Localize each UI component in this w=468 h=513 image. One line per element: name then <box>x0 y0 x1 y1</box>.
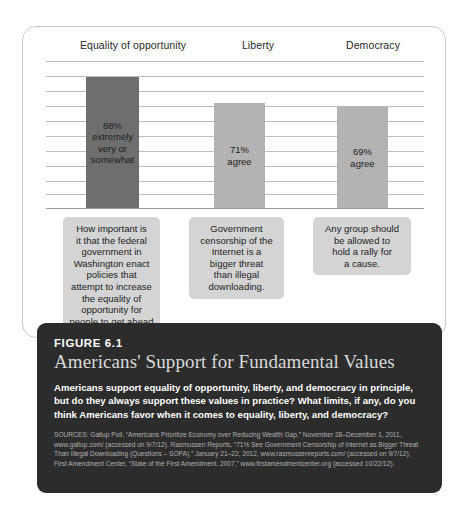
figure-number: FIGURE 6.1 <box>54 337 425 349</box>
figure-caption-panel: FIGURE 6.1 Americans' Support for Fundam… <box>37 323 442 493</box>
bar-liberty[interactable]: 71%agree <box>214 103 265 208</box>
chart-column-header-equality-of-opportunity: Equality of opportunity <box>38 39 228 51</box>
callout-liberty: Governmentcensorship of theInternet is a… <box>189 217 284 299</box>
chart-baseline <box>46 208 424 209</box>
callout-democracy: Any group shouldbe allowed tohold a rall… <box>313 217 411 275</box>
bar-democracy[interactable]: 69%agree <box>337 107 388 208</box>
gridline <box>46 61 424 62</box>
bar-chart: Equality of opportunity Liberty Democrac… <box>46 39 424 211</box>
chart-column-header-democracy: Democracy <box>318 39 428 51</box>
figure-title: Americans' Support for Fundamental Value… <box>54 351 425 373</box>
bar-value-label-democracy: 69%agree <box>348 146 376 169</box>
figure-description: Americans support equality of opportunit… <box>54 381 425 421</box>
bar-value-label-equality-of-opportunity: 88%extremelyvery orsomewhat <box>89 120 136 166</box>
chart-plot-area: 88%extremelyvery orsomewhat 71%agree 69%… <box>46 61 424 209</box>
bar-equality-of-opportunity[interactable]: 88%extremelyvery orsomewhat <box>86 77 139 208</box>
bar-value-label-liberty: 71%agree <box>225 144 253 167</box>
chart-column-header-liberty: Liberty <box>204 39 312 51</box>
figure-sources: SOURCES: Gallup Poll, “Americans Priorit… <box>54 430 425 468</box>
figure-card: Equality of opportunity Liberty Democrac… <box>22 26 446 338</box>
